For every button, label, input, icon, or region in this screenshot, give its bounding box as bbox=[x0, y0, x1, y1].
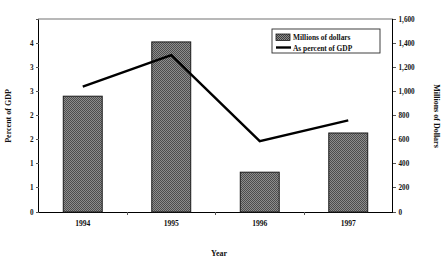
right-tick-label: 1,600 bbox=[399, 16, 416, 24]
right-tick-label: 0 bbox=[399, 209, 403, 217]
combo-chart: 01122334 02004006008001,0001,2001,4001,6… bbox=[0, 0, 443, 263]
bar bbox=[240, 172, 279, 212]
bar bbox=[63, 96, 102, 212]
legend-label-percent: As percent of GDP bbox=[293, 44, 353, 53]
y-axis-title-left: Percent of GDP bbox=[4, 89, 13, 143]
right-tick-label: 800 bbox=[399, 112, 410, 120]
category-tick-label: 1996 bbox=[252, 219, 267, 228]
left-tick-label: 2 bbox=[30, 136, 34, 144]
left-tick-label: 3 bbox=[30, 88, 34, 96]
right-tick-label: 1,000 bbox=[399, 88, 416, 96]
y-axis-title-right: Millions of Dollars bbox=[432, 84, 441, 148]
right-tick-label: 1,400 bbox=[399, 40, 416, 48]
category-tick-label: 1995 bbox=[164, 219, 179, 228]
left-tick-label: 3 bbox=[30, 64, 34, 72]
bar bbox=[329, 133, 368, 212]
left-tick-label: 0 bbox=[30, 209, 34, 217]
right-tick-label: 600 bbox=[399, 136, 410, 144]
left-tick-label: 4 bbox=[30, 40, 34, 48]
right-tick-label: 400 bbox=[399, 160, 410, 168]
chart-container: 01122334 02004006008001,0001,2001,4001,6… bbox=[0, 0, 443, 263]
right-tick-label: 200 bbox=[399, 184, 410, 192]
x-axis-title: Year bbox=[211, 249, 227, 258]
legend-swatch-bar-icon bbox=[276, 34, 290, 41]
chart-legend: Millions of dollars As percent of GDP bbox=[272, 29, 380, 53]
category-tick-label: 1994 bbox=[75, 219, 90, 228]
right-tick-label: 1,200 bbox=[399, 64, 416, 72]
left-tick-label: 2 bbox=[30, 112, 34, 120]
legend-label-millions: Millions of dollars bbox=[293, 33, 351, 42]
category-tick-label: 1997 bbox=[341, 219, 356, 228]
left-tick-label: 1 bbox=[30, 184, 34, 192]
left-tick-label: 1 bbox=[30, 160, 34, 168]
